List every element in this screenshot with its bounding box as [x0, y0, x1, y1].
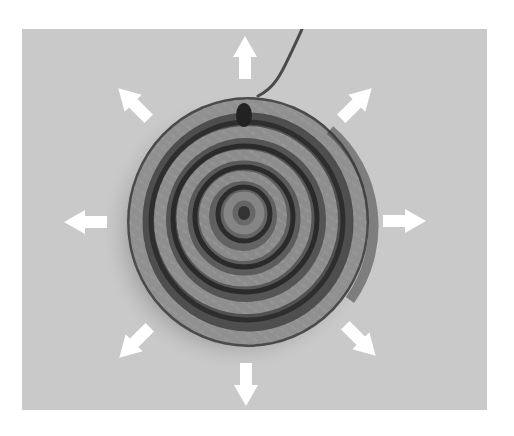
arrow-right-icon: [383, 209, 426, 233]
yarn-tail: [258, 29, 302, 96]
arrow-up-icon: [233, 36, 257, 79]
arrow-up-left-icon: [110, 80, 157, 127]
crochet-circle-photo: Crocheted flat circle worked in a spiral…: [22, 29, 487, 410]
arrow-down-right-icon: [337, 317, 384, 364]
arrow-up-right-icon: [333, 80, 380, 127]
